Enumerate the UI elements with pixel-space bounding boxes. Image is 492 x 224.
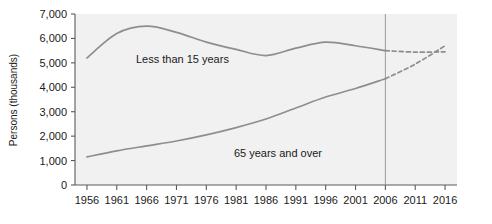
y-tick-label: 4,000 — [39, 81, 67, 93]
x-tick-label: 2006 — [373, 194, 397, 206]
population-age-groups-chart: 01,0002,0003,0004,0005,0006,0007,000 195… — [0, 0, 492, 224]
x-tick-label: 1996 — [313, 194, 337, 206]
y-tick-label: 2,000 — [39, 130, 67, 142]
y-tick-label: 1,000 — [39, 155, 67, 167]
x-tick-label: 1981 — [224, 194, 248, 206]
x-tick-label: 1986 — [254, 194, 278, 206]
series-label-65-and-over: 65 years and over — [234, 147, 322, 159]
x-tick-label: 1971 — [164, 194, 188, 206]
x-tick-label: 1991 — [284, 194, 308, 206]
x-tick-group: 1956196119661971197619811986199119962001… — [75, 185, 458, 206]
plot-background — [75, 14, 457, 185]
x-tick-label: 1976 — [194, 194, 218, 206]
x-tick-label: 2011 — [403, 194, 427, 206]
y-tick-label: 5,000 — [39, 57, 67, 69]
y-tick-label: 7,000 — [39, 8, 67, 20]
x-tick-label: 2016 — [433, 194, 457, 206]
series-label-less-than-15: Less than 15 years — [136, 53, 229, 65]
x-tick-label: 1961 — [105, 194, 129, 206]
chart-canvas: 01,0002,0003,0004,0005,0006,0007,000 195… — [0, 0, 492, 224]
y-axis-title: Persons (thousands) — [8, 54, 19, 146]
y-tick-group: 01,0002,0003,0004,0005,0006,0007,000 — [39, 8, 75, 191]
x-axis: 1956196119661971197619811986199119962001… — [75, 185, 458, 206]
y-tick-label: 3,000 — [39, 106, 67, 118]
x-tick-label: 1966 — [134, 194, 158, 206]
y-tick-label: 6,000 — [39, 32, 67, 44]
x-tick-label: 1956 — [75, 194, 99, 206]
y-tick-label: 0 — [61, 179, 67, 191]
x-tick-label: 2001 — [343, 194, 367, 206]
y-axis: 01,0002,0003,0004,0005,0006,0007,000 — [39, 8, 75, 191]
